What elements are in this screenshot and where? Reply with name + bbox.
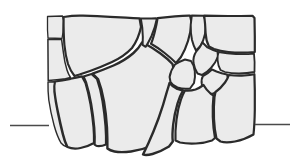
stone-masonry-figure (0, 0, 296, 167)
stone-block-01 (48, 16, 64, 39)
stone-block-13 (218, 52, 255, 74)
stones-group (48, 15, 255, 155)
masonry-cross-section-drawing (0, 0, 296, 167)
stone-block-11 (204, 16, 255, 53)
